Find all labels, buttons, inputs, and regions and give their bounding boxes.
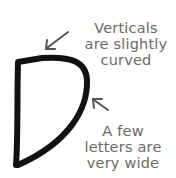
letter-d-glyph — [16, 58, 87, 165]
annotation-line: A few — [78, 123, 168, 139]
annotation-line: letters are — [78, 139, 168, 155]
annotation-line: are slightly — [76, 36, 176, 52]
annotation-line: very wide — [78, 155, 168, 171]
annotation-wide-letters: A few letters are very wide — [78, 123, 168, 171]
annotation-line: Verticals — [76, 20, 176, 36]
annotation-verticals-curved: Verticals are slightly curved — [76, 20, 176, 68]
arrow-icon-bottom — [93, 99, 108, 110]
arrow-icon-top — [46, 32, 68, 49]
annotation-line: curved — [76, 52, 176, 68]
